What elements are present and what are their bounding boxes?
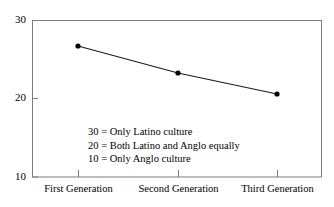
- ytick-label-30: 30: [4, 14, 26, 25]
- scale-legend: 30 = Only Latino culture 20 = Both Latin…: [88, 125, 240, 166]
- data-point-marker: [274, 91, 279, 96]
- chart-figure: 30 20 10 First Generation Second Generat…: [0, 0, 334, 207]
- ytick-label-20: 20: [4, 92, 26, 103]
- legend-line-30: 30 = Only Latino culture: [88, 125, 240, 139]
- data-series-line: [78, 46, 277, 94]
- data-point-marker: [75, 43, 80, 48]
- data-point-marker: [175, 70, 180, 75]
- xtick-label-third-generation: Third Generation: [207, 183, 334, 194]
- line-chart-plot-area: [0, 0, 334, 207]
- legend-line-20: 20 = Both Latino and Anglo equally: [88, 139, 240, 153]
- legend-line-10: 10 = Only Anglo culture: [88, 152, 240, 166]
- ytick-label-10: 10: [4, 171, 26, 182]
